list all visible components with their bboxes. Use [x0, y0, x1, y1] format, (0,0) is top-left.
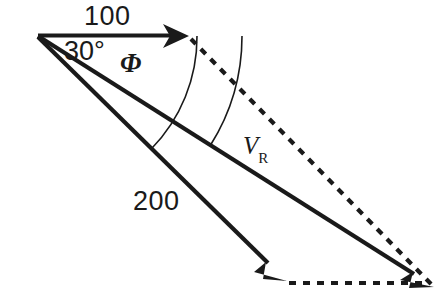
dashed-line-from-100-tip — [191, 39, 432, 285]
vector-vr-subscript: R — [258, 150, 268, 166]
construction-lines — [191, 39, 432, 285]
vector-vr-symbol: V — [243, 132, 258, 159]
vector-vr-label: VR — [243, 133, 268, 163]
angle-30-degree-label: 30° — [64, 38, 105, 65]
vector-vr-shaft — [38, 36, 414, 274]
vector-diagram: 100 200 30° Φ VR — [0, 0, 448, 303]
vector-200-label: 200 — [133, 188, 180, 215]
vector-200-shaft — [38, 37, 268, 263]
angle-phi-label: Φ — [120, 50, 141, 77]
vector-200-arrowhead — [254, 262, 287, 281]
angle-arcs — [151, 36, 242, 149]
arc-phi — [210, 36, 242, 146]
vector-100-label: 100 — [84, 3, 131, 30]
